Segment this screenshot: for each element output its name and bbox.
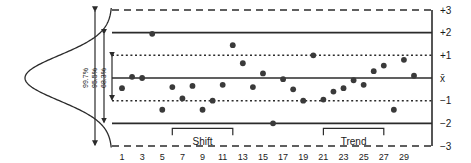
y-tick-+3: +3 [440, 5, 452, 16]
y-tick-+2: +2 [440, 27, 452, 38]
data-point [119, 85, 125, 91]
data-point [169, 84, 175, 90]
x-tick-13: 13 [238, 152, 248, 162]
sigma-label-99_7pct: 99.7% [82, 68, 89, 88]
data-point [139, 75, 145, 81]
chart-canvas: +3+2+1x̄−1−2−399.7%95.5%68.3%ShiftTrend1… [0, 0, 471, 163]
data-point [230, 42, 236, 48]
x-tick-21: 21 [318, 152, 328, 162]
x-tick-27: 27 [379, 152, 389, 162]
bracket-shift [172, 128, 233, 135]
x-tick-7: 7 [180, 152, 185, 162]
sigma-label-95_5pct: 95.5% [91, 68, 98, 88]
data-point [300, 98, 306, 104]
data-point [180, 96, 186, 102]
bracket-trend [323, 128, 383, 135]
data-point [371, 68, 377, 74]
x-tick-1: 1 [119, 152, 124, 162]
x-tick-3: 3 [140, 152, 145, 162]
data-point [361, 82, 367, 88]
data-point [260, 71, 266, 77]
normal-distribution-curve [25, 8, 111, 148]
control-chart-figure: +3+2+1x̄−1−2−399.7%95.5%68.3%ShiftTrend1… [0, 0, 471, 163]
data-point [411, 73, 417, 79]
data-point [341, 85, 347, 91]
sigma-label-68_3pct: 68.3% [100, 68, 107, 88]
x-tick-25: 25 [359, 152, 369, 162]
data-point [240, 60, 246, 66]
y-tick-minus2: −2 [440, 118, 452, 129]
data-point [220, 82, 226, 88]
annotation-label-shift: Shift [193, 136, 213, 147]
data-point [320, 97, 326, 103]
x-tick-9: 9 [200, 152, 205, 162]
y-tick-+1: +1 [440, 50, 452, 61]
data-point [401, 57, 407, 63]
data-point [391, 107, 397, 113]
data-point [381, 63, 387, 69]
x-tick-29: 29 [399, 152, 409, 162]
data-point [210, 98, 216, 104]
data-point [270, 120, 276, 126]
data-point [159, 107, 165, 113]
x-tick-23: 23 [339, 152, 349, 162]
data-point [250, 84, 256, 90]
x-tick-17: 17 [278, 152, 288, 162]
x-tick-15: 15 [258, 152, 268, 162]
x-tick-19: 19 [298, 152, 308, 162]
x-tick-11: 11 [218, 152, 227, 162]
y-tick-minus3: −3 [440, 141, 452, 152]
data-point [190, 83, 196, 89]
y-tick-minus1: −1 [440, 95, 452, 106]
data-point [331, 89, 337, 95]
data-point [351, 77, 357, 83]
data-point [149, 31, 155, 37]
x-tick-5: 5 [160, 152, 165, 162]
data-point [280, 76, 286, 82]
y-tick-xbar: x̄ [440, 73, 445, 84]
data-point [200, 107, 206, 113]
data-point [129, 74, 135, 80]
annotation-label-trend: Trend [341, 136, 367, 147]
data-point [290, 86, 296, 92]
data-point [310, 52, 316, 58]
